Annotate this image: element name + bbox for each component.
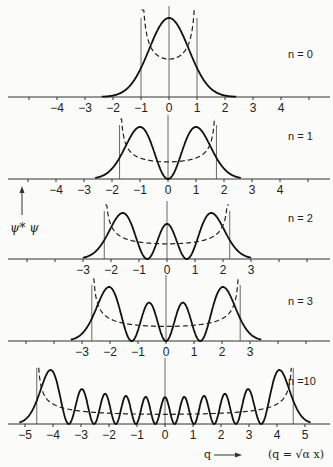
chart-svg: −4−3−2−101234n = 0−4−3−2−101234n = 1−3−2… <box>0 0 333 467</box>
tick-label: −1 <box>130 428 144 442</box>
tick-label: 0 <box>163 345 170 359</box>
panel-n=3: −3−2−10123n = 3 <box>8 275 330 359</box>
tick-label: −1 <box>131 345 145 359</box>
tick-label: −4 <box>50 101 64 115</box>
tick-label: −1 <box>134 101 148 115</box>
tick-label: 3 <box>248 263 255 277</box>
tick-label: 2 <box>222 101 229 115</box>
n-label: n = 2 <box>288 212 313 224</box>
tick-label: −3 <box>78 101 92 115</box>
n-label: n = 1 <box>288 130 313 142</box>
x-arrow-head <box>235 453 242 458</box>
panel-n=1: −4−3−2−101234n = 1 <box>8 115 330 197</box>
tick-label: 4 <box>277 183 284 197</box>
tick-label: 0 <box>166 101 173 115</box>
panel-n=0: −4−3−2−101234n = 0 <box>8 6 330 115</box>
tick-label: 1 <box>192 263 199 277</box>
x-axis-note: (q = √α x) <box>268 448 324 461</box>
tick-label: 0 <box>162 428 169 442</box>
tick-label: 1 <box>190 428 197 442</box>
tick-label: −3 <box>74 428 88 442</box>
tick-label: 1 <box>193 183 200 197</box>
tick-label: −3 <box>77 183 91 197</box>
tick-label: −3 <box>76 263 90 277</box>
tick-label: −2 <box>104 263 118 277</box>
tick-label: 0 <box>164 263 171 277</box>
tick-label: −2 <box>106 101 120 115</box>
tick-label: 0 <box>165 183 172 197</box>
tick-label: 2 <box>218 428 225 442</box>
tick-label: 1 <box>191 345 198 359</box>
tick-label: 3 <box>246 428 253 442</box>
tick-label: −1 <box>133 183 147 197</box>
tick-label: −2 <box>102 428 116 442</box>
tick-label: −2 <box>105 183 119 197</box>
panel-n=2: −3−2−10123n = 2 <box>8 201 330 277</box>
n-label: n = 0 <box>288 48 313 60</box>
tick-label: 1 <box>194 101 201 115</box>
tick-label: 3 <box>247 345 254 359</box>
tick-label: 3 <box>249 183 256 197</box>
tick-label: 4 <box>278 101 285 115</box>
y-arrow-head <box>20 186 25 193</box>
tick-label: 4 <box>274 428 281 442</box>
tick-label: −4 <box>46 428 60 442</box>
n-label: n = 3 <box>288 295 313 307</box>
tick-label: −2 <box>103 345 117 359</box>
y-axis-label: ψ* ψ <box>10 221 39 235</box>
tick-label: −3 <box>75 345 89 359</box>
x-axis-label: q <box>204 448 211 461</box>
tick-label: 5 <box>302 428 309 442</box>
tick-label: 2 <box>220 263 227 277</box>
tick-label: −5 <box>18 428 32 442</box>
tick-label: 3 <box>250 101 257 115</box>
tick-label: 2 <box>219 345 226 359</box>
tick-label: 2 <box>221 183 228 197</box>
n-label: n =10 <box>288 375 316 387</box>
tick-label: −1 <box>132 263 146 277</box>
tick-label: −4 <box>49 183 63 197</box>
panel-n=10: −5−4−3−2−1012345n =10 <box>8 358 330 442</box>
